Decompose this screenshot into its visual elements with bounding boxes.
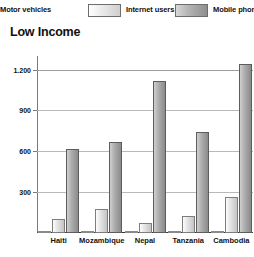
bar-nepal-internet-users[interactable] [139, 223, 152, 233]
x-axis-label-mozambique: Mozambique [79, 236, 124, 245]
low-income-bar-chart: Motor vehicles Internet users Mobile pho… [0, 0, 254, 257]
x-axis-label-haiti: Haiti [50, 236, 66, 245]
legend-label-mobile-phones: Mobile phones [213, 0, 254, 20]
y-axis-tick-label: 1.200 [13, 66, 31, 73]
bar-tanzania-mobile-phones[interactable] [196, 132, 209, 233]
x-axis-label-nepal: Nepal [135, 236, 155, 245]
legend-label-motor-vehicles: Motor vehicles [0, 0, 51, 20]
bar-haiti-motor-vehicles[interactable] [38, 231, 51, 233]
bar-nepal-mobile-phones[interactable] [153, 81, 166, 233]
bar-group: Haiti [37, 56, 80, 233]
bar-nepal-motor-vehicles[interactable] [125, 231, 138, 233]
legend-item-motor-vehicles: Motor vehicles [0, 0, 51, 20]
chart-legend: Motor vehicles Internet users Mobile pho… [0, 0, 254, 20]
bar-group: Mozambique [80, 56, 123, 233]
chart-title: Low Income [10, 25, 80, 39]
bar-haiti-mobile-phones[interactable] [66, 149, 79, 233]
bar-tanzania-internet-users[interactable] [182, 216, 195, 233]
internet-users-swatch-icon [88, 4, 121, 17]
bar-cambodia-mobile-phones[interactable] [239, 64, 252, 233]
y-axis-tick-label: 300 [19, 189, 31, 196]
plot-area: 3006009001.200 HaitiMozambiqueNepalTanza… [37, 56, 253, 233]
bar-mozambique-internet-users[interactable] [95, 209, 108, 234]
x-axis-label-cambodia: Cambodia [213, 236, 249, 245]
legend-item-mobile-phones: Mobile phones [175, 0, 254, 20]
mobile-phones-swatch-icon [175, 4, 208, 17]
bar-group: Cambodia [210, 56, 253, 233]
y-axis-tick-label: 900 [19, 107, 31, 114]
bar-group: Nepal [123, 56, 166, 233]
bar-cambodia-internet-users[interactable] [225, 197, 238, 233]
legend-item-internet-users: Internet users [88, 0, 174, 20]
y-axis-tick-label: 600 [19, 148, 31, 155]
legend-label-internet-users: Internet users [126, 0, 174, 20]
x-axis-label-tanzania: Tanzania [172, 236, 204, 245]
bar-cambodia-motor-vehicles[interactable] [211, 231, 224, 233]
bar-mozambique-mobile-phones[interactable] [109, 142, 122, 233]
bar-group: Tanzania [167, 56, 210, 233]
bar-groups: HaitiMozambiqueNepalTanzaniaCambodia [37, 56, 253, 233]
bar-haiti-internet-users[interactable] [52, 219, 65, 233]
bar-mozambique-motor-vehicles[interactable] [81, 231, 94, 233]
bar-tanzania-motor-vehicles[interactable] [168, 231, 181, 233]
